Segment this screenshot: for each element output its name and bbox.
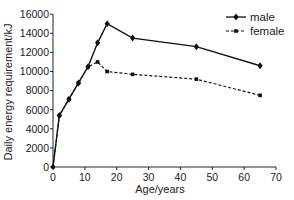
x-tick-label: 20 [111,171,123,183]
energy-requirement-chart: 0200040006000800010000120001400016000 01… [0,0,294,200]
x-axis-title: Age/years [135,183,185,195]
x-tick-label: 70 [270,171,282,183]
y-tick-label: 0 [43,161,49,173]
y-axis: 0200040006000800010000120001400016000 [20,8,53,173]
y-tick-label: 10000 [20,65,49,77]
y-tick-label: 8000 [26,84,50,96]
diamond-marker-icon [233,14,238,21]
legend-item-male: male [226,11,275,23]
square-marker-icon [96,60,100,64]
y-tick-label: 16000 [20,8,49,20]
square-marker-icon [258,94,262,98]
y-tick-label: 12000 [20,46,49,58]
x-tick-label: 30 [143,171,155,183]
origin-marker-icon [51,165,55,169]
diamond-marker-icon [257,62,262,69]
y-tick-label: 2000 [26,142,50,154]
x-axis: 010203040506070 [50,167,282,183]
legend-item-female: female [226,25,285,37]
square-marker-icon [131,73,135,77]
diamond-marker-icon [194,43,199,50]
series-male [51,20,263,169]
y-axis-title: Daily energy requirement/kJ [2,24,14,161]
plot-series [51,20,263,169]
legend-label-female: female [250,25,285,37]
square-marker-icon [195,77,199,81]
x-tick-label: 0 [50,171,56,183]
square-marker-icon [234,29,238,33]
legend-label-male: male [250,11,275,23]
y-tick-label: 6000 [26,104,50,116]
x-tick-label: 40 [175,171,187,183]
y-tick-label: 14000 [20,27,49,39]
y-tick-label: 4000 [26,123,50,135]
x-tick-label: 50 [206,171,218,183]
x-tick-label: 60 [238,171,250,183]
legend: male female [226,11,285,37]
x-tick-label: 10 [79,171,91,183]
square-marker-icon [105,70,109,74]
diamond-marker-icon [130,35,135,42]
